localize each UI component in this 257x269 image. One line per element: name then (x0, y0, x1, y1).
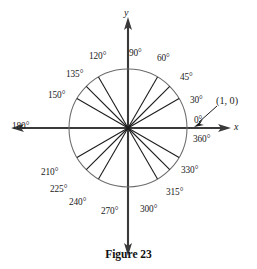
label-degree-120: 120° (89, 52, 106, 61)
label-degree-360: 360° (193, 135, 210, 144)
label-degree-60: 60° (157, 54, 170, 63)
unit-circle-diagram (0, 0, 257, 269)
label-degree-270: 270° (101, 207, 118, 216)
label-degree-90: 90° (129, 49, 142, 58)
label-degree-300: 300° (140, 205, 157, 214)
label-degree-315: 315° (166, 188, 183, 197)
label-degree-225: 225° (50, 185, 67, 194)
figure-container: 0° 360° 30° 45° 60° 90° 120° 135° 150° 1… (0, 0, 257, 269)
y-axis-label: y (124, 8, 128, 18)
label-degree-180: 180° (12, 122, 29, 131)
label-degree-0: 0° (194, 116, 202, 125)
label-degree-30: 30° (190, 96, 203, 105)
label-degree-240: 240° (69, 198, 86, 207)
label-degree-135: 135° (66, 70, 83, 79)
x-axis-label: x (234, 122, 238, 132)
label-degree-330: 330° (181, 166, 198, 175)
unit-point-label: (1, 0) (216, 96, 238, 106)
label-degree-45: 45° (180, 73, 193, 82)
label-degree-150: 150° (48, 91, 65, 100)
figure-caption: Figure 23 (0, 249, 257, 261)
label-degree-210: 210° (41, 168, 58, 177)
